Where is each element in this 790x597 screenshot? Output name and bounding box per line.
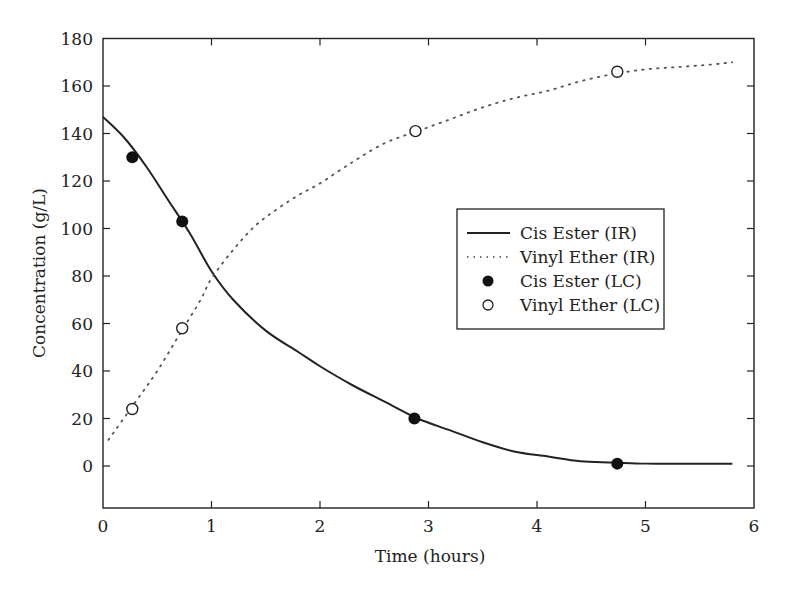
y-tick-label: 80 [71,266,93,286]
y-tick-label: 140 [61,124,93,144]
legend-filled-circle-icon [483,276,494,287]
x-tick-label: 0 [98,516,109,536]
vinyl-ether-lc-point [127,404,138,415]
chart-canvas: 0123456020406080100120140160180 Time (ho… [0,0,790,597]
legend-open-circle-icon [483,300,493,310]
y-tick-label: 100 [61,219,93,239]
vinyl-ether-lc-point [410,126,421,137]
vinyl-ether-lc-point [177,323,188,334]
legend-label: Vinyl Ether (LC) [519,295,660,315]
x-tick-label: 4 [532,516,543,536]
x-tick-label: 6 [749,516,760,536]
cis-ester-lc-point [176,215,188,227]
cis-ester-lc-point [408,413,420,425]
y-tick-label: 20 [71,409,93,429]
cis-ester-lc-point [611,458,623,470]
y-tick-label: 40 [71,361,93,381]
x-tick-label: 3 [423,516,434,536]
y-tick-label: 120 [61,171,93,191]
legend-label: Vinyl Ether (IR) [519,247,655,267]
legend-label: Cis Ester (LC) [520,271,642,291]
x-axis-label: Time (hours) [375,546,486,566]
x-tick-label: 1 [206,516,217,536]
vinyl-ether-lc-point [612,66,623,77]
legend: Cis Ester (IR) Vinyl Ether (IR) Cis Este… [457,209,664,329]
y-tick-label: 180 [61,29,93,49]
legend-label: Cis Ester (IR) [520,223,637,243]
cis-ester-lc-point [126,151,138,163]
y-tick-label: 160 [61,76,93,96]
y-tick-label: 0 [82,456,93,476]
y-tick-label: 60 [71,314,93,334]
x-tick-label: 5 [640,516,651,536]
y-axis-label: Concentration (g/L) [29,188,49,358]
x-tick-label: 2 [315,516,326,536]
